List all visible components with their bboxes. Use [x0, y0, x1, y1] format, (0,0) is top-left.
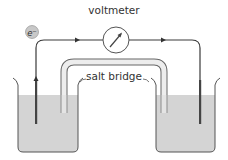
- right-electrode: [199, 80, 201, 124]
- left-electrode: [35, 80, 37, 124]
- arrow-right-icon: [161, 38, 166, 43]
- salt-bridge-label: salt bridge: [86, 70, 142, 82]
- svg-text:e⁻: e⁻: [27, 28, 37, 38]
- left-solution: [18, 95, 78, 152]
- salt-bridge-bracket-right: [143, 79, 149, 82]
- voltmeter: [103, 27, 129, 53]
- voltmeter-label: voltmeter: [88, 4, 140, 16]
- electrochemical-cell-diagram: salt bridge voltmeter e⁻: [0, 0, 228, 160]
- electron-badge: e⁻: [26, 26, 39, 39]
- arrow-right-icon: [75, 38, 80, 43]
- arrow-up-icon: [34, 76, 39, 81]
